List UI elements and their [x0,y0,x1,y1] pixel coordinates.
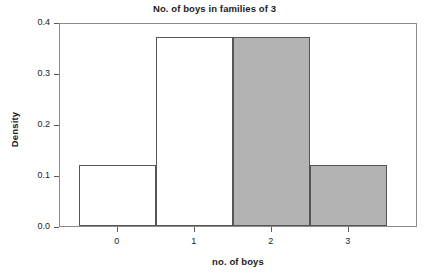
y-axis-tick-label: 0.3 [20,68,50,78]
chart-title: No. of boys in families of 3 [0,3,429,14]
x-axis-tick-label: 3 [336,236,360,246]
x-axis-tick [117,227,118,232]
histogram-bar [310,165,387,226]
x-axis-tick-label: 2 [259,236,283,246]
x-axis-tick-label: 1 [182,236,206,246]
plot-area [59,23,417,227]
x-axis-tick-label: 0 [105,236,129,246]
y-axis-tick [54,227,59,228]
histogram-bar [79,165,156,226]
y-axis-tick-label: 0.0 [20,221,50,231]
y-axis-tick-label: 0.1 [20,170,50,180]
histogram-bar [233,37,310,226]
x-axis-tick [348,227,349,232]
histogram-bar [156,37,233,226]
x-axis-tick [271,227,272,232]
x-axis-title: no. of boys [59,256,417,267]
histogram-figure: No. of boys in families of 3 Density no.… [0,0,429,278]
x-axis-tick [194,227,195,232]
y-axis-tick-label: 0.4 [20,17,50,27]
y-axis-title-text: Density [10,111,21,147]
bars-layer [60,24,416,226]
y-axis-tick-label: 0.2 [20,119,50,129]
y-axis-title: Density [6,94,24,164]
